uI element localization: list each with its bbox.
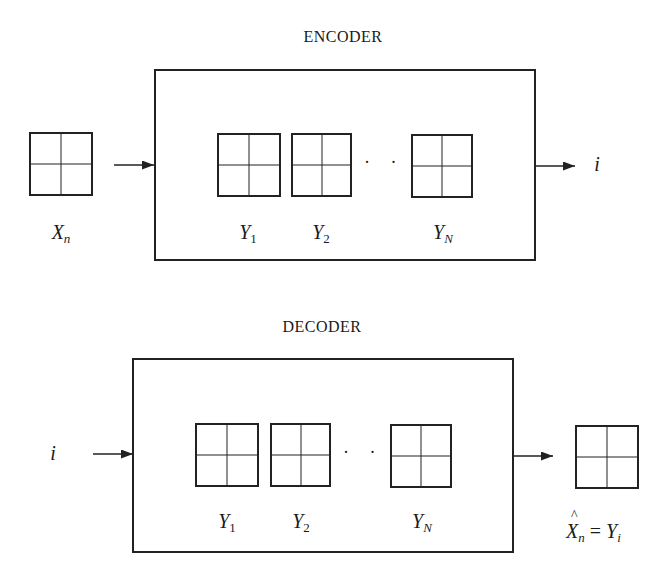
output-block-xhat <box>575 425 639 489</box>
input-block-xn <box>29 132 93 196</box>
encoder-codeword-yn <box>411 134 473 198</box>
decoder-label-yn: YN <box>382 510 462 536</box>
decoder-codeword-y1 <box>195 423 259 487</box>
encoder-codeword-y1 <box>217 133 281 197</box>
xhat-symbol: X <box>566 520 578 543</box>
input-label-xn: Xn <box>21 221 101 247</box>
decoder-codeword-yn <box>390 424 452 488</box>
output-label-xhat-equals-yi: Xn = Yi <box>566 520 650 546</box>
encoder-label-y2: Y2 <box>281 221 361 247</box>
decoder-label-y2: Y2 <box>261 510 341 536</box>
encoder-output-label: i <box>587 153 607 176</box>
decoder-label-y1: Y1 <box>187 510 267 536</box>
encoder-label-y1: Y1 <box>208 221 288 247</box>
encoder-label-yn: YN <box>403 221 483 247</box>
encoder-codeword-y2 <box>291 133 352 197</box>
decoder-codeword-y2 <box>270 423 331 487</box>
encoder-title: ENCODER <box>283 28 403 46</box>
decoder-title: DECODER <box>262 318 382 336</box>
decoder-input-label: i <box>43 442 63 465</box>
